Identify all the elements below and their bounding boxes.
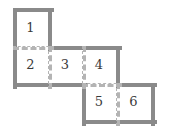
net-cell-label: 4 xyxy=(82,46,116,83)
net-cell-label: 1 xyxy=(13,8,48,46)
net-cell-label: 3 xyxy=(48,46,82,83)
net-cell-4: 4 xyxy=(82,46,116,83)
net-cell-2: 2 xyxy=(13,46,48,83)
net-cell-label: 6 xyxy=(116,83,151,120)
fold-cell5-cell6 xyxy=(116,83,120,126)
polyomino-net-figure: 1 2 3 4 5 6 xyxy=(0,0,169,136)
net-cell-3: 3 xyxy=(48,46,82,83)
net-cell-1: 1 xyxy=(13,8,48,46)
net-cell-label: 5 xyxy=(82,83,116,120)
net-cell-6: 6 xyxy=(116,83,151,120)
net-cell-label: 2 xyxy=(13,46,48,83)
fold-cell2-cell3 xyxy=(48,46,52,89)
net-cell-5: 5 xyxy=(82,83,116,120)
